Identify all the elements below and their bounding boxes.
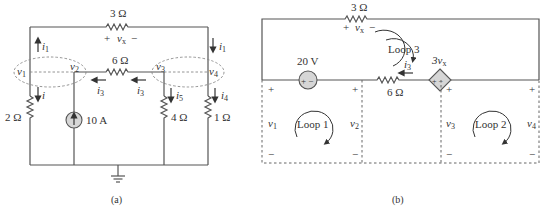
resistor-3ohm-label-b: 3 Ω [351,1,367,13]
voltage-source-label: 20 V [297,55,319,67]
voltage-v3-b: v3 [446,117,455,131]
vx-label-b: vx [355,21,364,35]
plus-v2: + [352,83,358,95]
vx-plus-b: + [343,21,349,33]
current-i3-b: i3 [404,58,411,72]
resistor-4ohm-a [161,96,167,165]
current-i2: i [42,89,45,101]
current-i1-right: i1 [219,40,226,54]
circuit-figure: 3 Ω + vx − 2 Ω 1 Ω 6 Ω 10 A 4 Ω [0,0,542,209]
plus-v4: + [529,83,535,95]
loop3-label: Loop 3 [388,43,420,55]
resistor-6ohm-label-b: 6 Ω [387,86,403,98]
vx-label-a: vx [117,32,126,46]
dep-polarity: + − [432,77,444,86]
minus-v3: − [446,148,452,160]
resistor-1ohm-a [205,96,211,165]
plus-v3: + [446,83,452,95]
resistor-6ohm-b [317,77,430,83]
minus-v2: − [352,148,358,160]
current-i5: i5 [176,89,183,103]
node-v3-a: v3 [156,60,165,74]
plus-v1: + [268,83,274,95]
resistor-2ohm-a [27,96,33,165]
resistor-1ohm-label: 1 Ω [214,111,230,123]
minus-v4: − [529,148,535,160]
vx-plus-a: + [104,32,110,44]
caption-b: (b) [392,194,404,206]
current-i3-right: i3 [137,84,144,98]
wire-top-a [30,24,208,30]
caption-a: (a) [111,194,122,206]
voltage-v2-b: v2 [350,117,359,131]
dependent-source-label: 3vx [431,54,446,68]
current-i3-left: i3 [97,84,104,98]
node-v1-a: v1 [17,65,26,79]
resistor-3ohm-label-a: 3 Ω [110,7,126,19]
wire-mid-a [74,69,164,75]
current-source-label: 10 A [86,114,107,126]
current-i1-left: i1 [42,40,49,54]
current-i4: i4 [221,89,228,103]
circuit-b: 3 Ω + vx − + − 20 V 6 Ω + − 3vx i3 Loop … [262,1,539,206]
vx-minus-b: − [369,21,375,33]
loop2-label: Loop 2 [475,118,506,130]
resistor-2ohm-label: 2 Ω [5,111,21,123]
node-v4-a: v4 [209,65,218,79]
loop1-label: Loop 1 [297,118,328,130]
voltage-v4-b: v4 [527,117,536,131]
vx-minus-a: − [131,32,137,44]
resistor-4ohm-label: 4 Ω [171,111,187,123]
ground-icon [111,165,125,182]
resistor-6ohm-label-a: 6 Ω [112,54,128,66]
voltage-v1-b: v1 [268,117,277,131]
minus-v1: − [268,148,274,160]
circuit-a: 3 Ω + vx − 2 Ω 1 Ω 6 Ω 10 A 4 Ω [5,7,230,206]
vs-polarity: + − [301,76,313,86]
